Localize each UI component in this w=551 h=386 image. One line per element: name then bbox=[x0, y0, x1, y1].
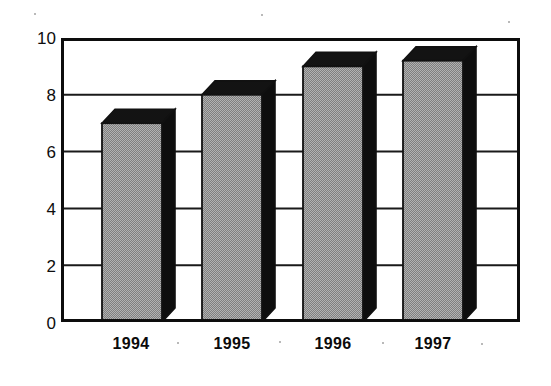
scan-speck bbox=[508, 21, 510, 23]
scan-speck bbox=[382, 342, 384, 344]
scan-speck bbox=[261, 14, 263, 16]
x-tick-label-1996: 1996 bbox=[288, 336, 378, 352]
bar-1995-side-face bbox=[262, 81, 275, 322]
y-tick-label-8: 8 bbox=[22, 87, 56, 104]
bar-1997-side-face bbox=[463, 47, 476, 322]
bar-1997-front-face bbox=[403, 61, 463, 322]
bar-1994-front-face bbox=[102, 123, 162, 322]
bar-1994[interactable] bbox=[102, 109, 175, 322]
bar-1997[interactable] bbox=[403, 47, 476, 322]
scan-speck bbox=[177, 342, 179, 344]
bar-1995-front-face bbox=[202, 95, 262, 322]
scan-speck bbox=[481, 343, 483, 345]
y-tick-label-0: 0 bbox=[22, 315, 56, 332]
bar-1996-front-face bbox=[303, 66, 363, 322]
x-tick-label-1995: 1995 bbox=[187, 336, 277, 352]
bar-1996-side-face bbox=[363, 52, 376, 322]
bar-chart: 10 8 6 4 2 0 bbox=[0, 0, 551, 386]
bar-1995[interactable] bbox=[202, 81, 275, 322]
bar-1994-side-face bbox=[162, 109, 175, 322]
y-axis-tick-labels: 10 8 6 4 2 0 bbox=[16, 0, 56, 386]
y-tick-label-6: 6 bbox=[22, 144, 56, 161]
y-tick-label-4: 4 bbox=[22, 201, 56, 218]
y-tick-label-2: 2 bbox=[22, 258, 56, 275]
plot-svg bbox=[61, 38, 520, 322]
x-tick-label-1994: 1994 bbox=[86, 336, 176, 352]
y-tick-label-10: 10 bbox=[22, 30, 56, 47]
plot-area bbox=[61, 38, 520, 322]
scan-speck bbox=[34, 13, 36, 15]
bar-1996[interactable] bbox=[303, 52, 376, 322]
x-tick-label-1997: 1997 bbox=[388, 336, 478, 352]
scan-speck bbox=[279, 341, 281, 343]
